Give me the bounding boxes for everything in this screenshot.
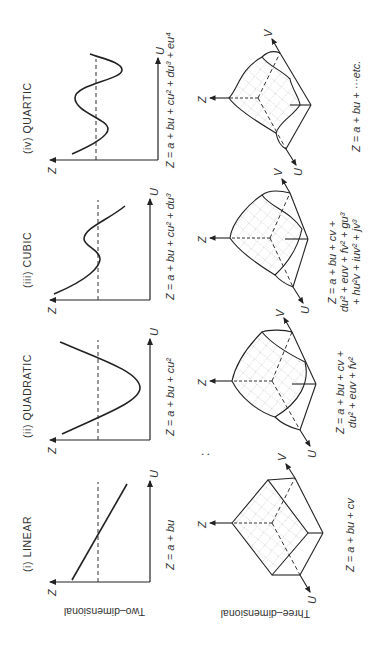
linear-curve — [72, 484, 127, 580]
quadratic-3d-surface — [210, 318, 316, 446]
z-axis-label: Z — [196, 379, 208, 386]
equation-3d-quartic: Z = a + bu + ···etc. — [350, 61, 362, 152]
panel-title-quartic: (iv) QUARTIC — [21, 82, 33, 154]
linear-2d-graph — [50, 481, 150, 582]
cubic-2d-graph — [50, 199, 150, 300]
equation-2d-quadratic: Z = a + bu + cu² — [164, 358, 176, 436]
z-axis-label: Z — [46, 307, 58, 314]
cubic-curve — [54, 206, 125, 294]
z-axis-label: Z — [196, 521, 208, 528]
equation-2d-cubic: Z = a + bu + cu² + du³ — [164, 194, 176, 300]
linear-3d-surface — [210, 464, 323, 592]
equation-line: + hu²v + iuv² + jv³ — [350, 213, 362, 312]
equation-3d-linear: Z = a + bu + cv — [344, 498, 356, 572]
v-axis-label: V — [274, 310, 286, 317]
equation-2d-quartic: Z = a + bu + cu² + du³ + eu⁴ — [164, 32, 176, 168]
u-axis-label: U — [148, 188, 160, 196]
row-label-two-dimensional: Two–dimensional — [64, 606, 145, 618]
quartic-3d-surface — [210, 39, 311, 165]
u-axis-label: U — [148, 328, 160, 336]
equation-line: du² + euv + fv² — [346, 351, 358, 434]
quadratic-curve — [60, 342, 140, 434]
panel-title-cubic: (iii) CUBIC — [21, 232, 33, 288]
u-axis-label: U — [299, 306, 311, 314]
u-axis-label: U — [306, 596, 318, 604]
v-axis-label: V — [276, 454, 288, 461]
panel-title-linear: (i) LINEAR — [21, 516, 33, 572]
equation-3d-cubic: Z = a + bu + cv + du² + euv + fv² + gu³ … — [326, 213, 362, 312]
equation-line: Z = a + bu + cv + — [326, 213, 338, 312]
equation-3d-quadratic: Z = a + bu + cv + du² + euv + fv² — [334, 351, 358, 434]
quartic-curve — [72, 54, 122, 154]
equation-line: Z = a + bu + cv + — [334, 351, 346, 434]
u-axis-label: U — [306, 450, 318, 458]
v-axis-label: V — [272, 169, 284, 176]
equation-line: Z = a + bu + ···etc. — [350, 61, 362, 152]
equation-2d-linear: Z = a + bu — [164, 520, 176, 570]
z-axis-label: Z — [46, 167, 58, 174]
u-axis-label: U — [148, 470, 160, 478]
quadratic-2d-graph — [50, 339, 150, 440]
u-axis-label: U — [292, 168, 304, 176]
equation-line: Z = a + bu + cv — [344, 498, 356, 572]
equation-line: du² + euv + fv² + gu³ — [338, 213, 350, 312]
cubic-3d-surface — [210, 179, 308, 303]
z-axis-label: Z — [46, 589, 58, 596]
v-axis-label: V — [262, 30, 274, 37]
quartic-2d-graph — [50, 54, 158, 160]
panel-title-quadratic: (ii) QUADRATIC — [21, 354, 33, 438]
row-label-three-dimensional: Three–dimensional — [221, 608, 310, 620]
separator-dots: : — [198, 453, 212, 456]
z-axis-label: Z — [196, 96, 208, 103]
polynomial-trend-surface-figure: Two–dimensional Three–dimensional : (i) … — [0, 0, 391, 664]
z-axis-label: Z — [46, 447, 58, 454]
z-axis-label: Z — [196, 236, 208, 243]
